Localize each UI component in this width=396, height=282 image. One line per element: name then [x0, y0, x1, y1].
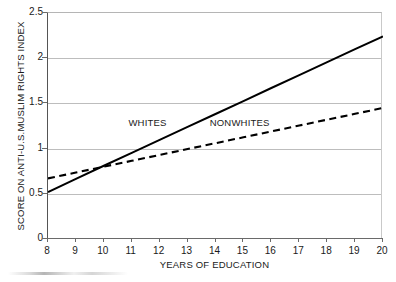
x-tick-mark-10 [103, 238, 104, 242]
x-tick-mark-9 [75, 238, 76, 242]
series-label-whites: WHITES [128, 117, 166, 128]
x-tick-mark-17 [298, 238, 299, 242]
x-tick-label-17: 17 [285, 245, 311, 256]
y-tick-mark-2.5 [42, 12, 47, 13]
x-tick-mark-11 [131, 238, 132, 242]
y-tick-label-2.5: 2.5 [3, 7, 43, 17]
y-tick-mark-2 [42, 57, 47, 58]
x-tick-label-19: 19 [341, 245, 367, 256]
x-tick-mark-16 [270, 238, 271, 242]
y-axis-tick-labels: 00.511.522.5 [0, 0, 43, 282]
x-tick-mark-18 [326, 238, 327, 242]
x-tick-label-8: 8 [34, 245, 60, 256]
x-tick-label-16: 16 [257, 245, 283, 256]
x-tick-label-10: 10 [90, 245, 116, 256]
x-axis-title: YEARS OF EDUCATION [47, 259, 382, 270]
x-tick-label-9: 9 [62, 245, 88, 256]
x-tick-mark-20 [382, 238, 383, 242]
y-tick-mark-0.5 [42, 193, 47, 194]
x-tick-label-20: 20 [369, 245, 395, 256]
chart-figure: SCORE ON ANTI-U.S.MUSLIM RIGHTS INDEX 00… [0, 0, 396, 282]
x-tick-label-12: 12 [146, 245, 172, 256]
y-tick-mark-1 [42, 148, 47, 149]
x-tick-mark-8 [47, 238, 48, 242]
x-tick-mark-12 [159, 238, 160, 242]
y-tick-label-0.5: 0.5 [3, 188, 43, 198]
x-tick-mark-13 [187, 238, 188, 242]
x-tick-label-13: 13 [174, 245, 200, 256]
y-tick-label-1.5: 1.5 [3, 97, 43, 107]
y-tick-label-0: 0 [3, 233, 43, 243]
x-tick-mark-14 [215, 238, 216, 242]
y-tick-label-2: 2 [3, 52, 43, 62]
x-tick-label-11: 11 [118, 245, 144, 256]
x-tick-label-15: 15 [229, 245, 255, 256]
scan-artifact [8, 272, 128, 275]
y-tick-mark-1.5 [42, 102, 47, 103]
series-label-nonwhites: NONWHITES [210, 117, 270, 128]
x-tick-mark-19 [354, 238, 355, 242]
x-tick-label-14: 14 [202, 245, 228, 256]
x-tick-label-18: 18 [313, 245, 339, 256]
x-tick-mark-15 [242, 238, 243, 242]
y-tick-label-1: 1 [3, 143, 43, 153]
